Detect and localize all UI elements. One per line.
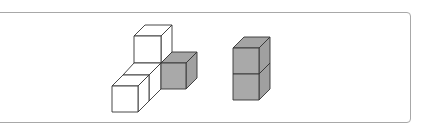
cube-figure	[0, 0, 422, 130]
cube-bottom-left-white	[112, 75, 149, 112]
left-cube-structure	[112, 25, 197, 112]
cube-right-gray	[161, 52, 197, 89]
right-cube-stack	[233, 37, 270, 100]
